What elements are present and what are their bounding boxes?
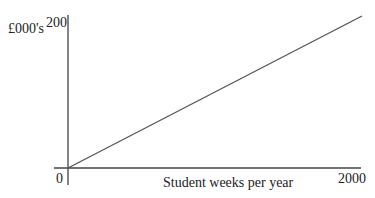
x-max-tick-label: 2000 <box>338 172 366 186</box>
y-axis-unit-label: £000's <box>8 22 44 36</box>
y-max-tick-label: 200 <box>46 16 67 30</box>
origin-tick-label: 0 <box>56 172 63 186</box>
x-axis-title: Student weeks per year <box>163 176 293 190</box>
data-line <box>68 16 362 168</box>
